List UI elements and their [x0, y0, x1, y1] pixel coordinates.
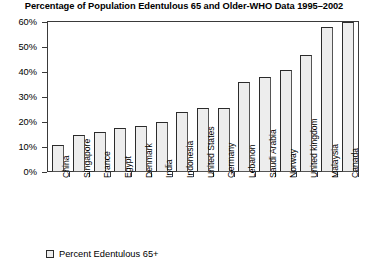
x-axis-tick-label: United kingdom: [310, 118, 319, 178]
y-axis-tick-label: 50%: [18, 42, 37, 52]
legend-label: Percent Edentulous 65+: [59, 249, 159, 259]
y-axis-tick-label: 0%: [24, 167, 37, 177]
x-axis-tick-label: Egypt: [124, 156, 133, 178]
x-axis-tick-label: Saudi Arabia: [269, 129, 278, 178]
chart-container: Percentage of Population Edentulous 65 a…: [0, 0, 368, 267]
y-axis-tick-mark: [42, 172, 47, 173]
x-axis-tick-label: Malaysia: [331, 144, 340, 178]
y-axis-tick-label: 30%: [18, 92, 37, 102]
x-axis-tick-label: Denmark: [145, 143, 154, 178]
y-axis-tick-label: 10%: [18, 142, 37, 152]
x-axis-tick-label: United States: [207, 126, 216, 178]
chart-title: Percentage of Population Edentulous 65 a…: [0, 1, 368, 11]
x-axis-tick-label: Canada: [351, 148, 360, 178]
legend-swatch-icon: [46, 250, 54, 258]
chart-legend: Percent Edentulous 65+: [46, 249, 159, 259]
x-axis-tick-label: Norway: [289, 149, 298, 178]
x-axis-tick-label: Germany: [227, 143, 236, 178]
x-axis-tick-label: India: [165, 159, 174, 178]
x-axis-tick-label: Lebanon: [248, 145, 257, 178]
x-axis-tick-label: France: [103, 151, 112, 178]
x-axis-tick-label: Indonesia: [186, 141, 195, 178]
y-axis: 60%50%40%30%20%10%0%: [0, 14, 47, 180]
y-axis-tick-label: 40%: [18, 67, 37, 77]
y-axis-tick-label: 20%: [18, 117, 37, 127]
x-axis-tick-label: China: [62, 156, 71, 178]
y-axis-tick-label: 60%: [18, 17, 37, 27]
x-axis-tick-label: Singapore: [83, 139, 92, 178]
